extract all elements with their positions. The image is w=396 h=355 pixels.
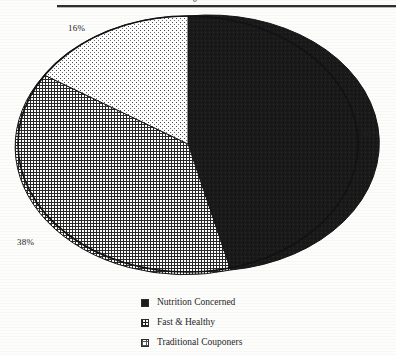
legend-label: Nutrition Concerned <box>157 297 235 308</box>
data-label-nutrition-concerned: 46% <box>362 128 379 138</box>
legend-item-nutrition-concerned[interactable]: Nutrition Concerned <box>141 294 341 311</box>
data-label-fast-and-healthy: 16% <box>68 23 85 33</box>
cropped-title-fragment: g <box>186 0 204 2</box>
legend-label: Fast & Healthy <box>157 317 215 328</box>
data-label-traditional-couponers: 38% <box>17 237 34 247</box>
document-page: g <box>0 0 396 355</box>
pie-chart: 16% 46% 38% <box>0 10 396 286</box>
solid-black-swatch-icon <box>141 299 149 307</box>
legend-item-fast-and-healthy[interactable]: Fast & Healthy <box>141 314 341 331</box>
light-dot-swatch-icon <box>141 339 149 347</box>
legend-item-traditional-couponers[interactable]: Traditional Couponers <box>141 334 341 351</box>
cross-hatch-swatch-icon <box>141 319 149 327</box>
chart-legend: Nutrition Concerned Fast & Healthy Tradi… <box>141 294 341 354</box>
pie-chart-svg <box>0 10 396 286</box>
legend-label: Traditional Couponers <box>157 337 242 348</box>
header-rule-shadow <box>57 7 396 8</box>
